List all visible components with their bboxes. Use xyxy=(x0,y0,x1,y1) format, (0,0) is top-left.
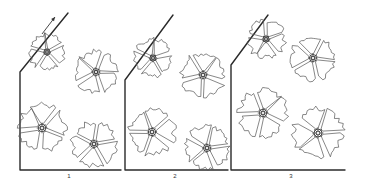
wall-outline xyxy=(231,15,345,170)
panel-label-1: 1 xyxy=(67,173,70,179)
wall-outline xyxy=(125,15,228,170)
flower-drawing xyxy=(17,102,67,151)
flower-drawing xyxy=(180,54,226,98)
flower-drawing xyxy=(290,38,335,82)
panel-label-3: 3 xyxy=(289,173,292,179)
panel-1 xyxy=(17,13,121,170)
panel-3 xyxy=(231,15,345,170)
flower-drawing xyxy=(184,124,230,170)
diagram-canvas xyxy=(0,0,366,186)
flower-drawing xyxy=(128,108,177,156)
panel-label-2: 2 xyxy=(173,173,176,179)
flower-drawing xyxy=(70,122,117,168)
panel-2 xyxy=(125,15,230,171)
flower-drawing xyxy=(237,88,289,139)
flower-drawing xyxy=(247,19,286,58)
wall-outline xyxy=(20,13,121,170)
flower-drawing xyxy=(291,106,345,159)
flower-drawing xyxy=(76,49,119,93)
